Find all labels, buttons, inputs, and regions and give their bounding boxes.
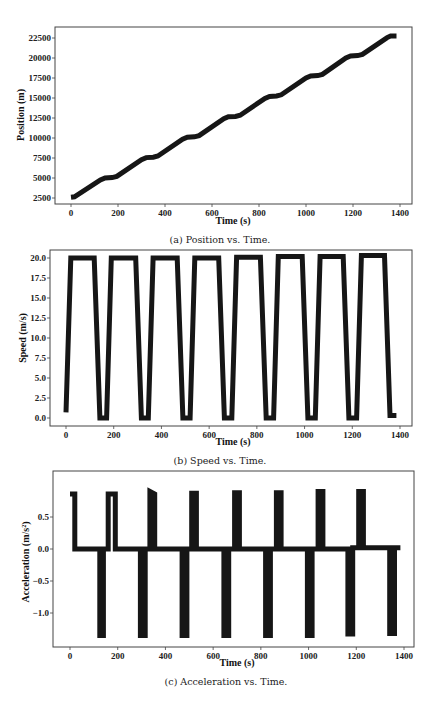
x-tick-label: 1400 <box>391 208 410 218</box>
x-tick-label: 800 <box>252 208 266 218</box>
y-tick-label: 7500 <box>33 153 52 163</box>
x-tick-label: 400 <box>159 651 173 661</box>
y-tick-label: 12.5 <box>30 313 46 323</box>
figure: 0200400600800100012001400 25005000750010… <box>0 0 440 708</box>
x-axis-label: Time (s) <box>219 657 254 669</box>
y-tick-label: 17500 <box>29 73 52 83</box>
y-tick-label: 0.0 <box>35 413 47 423</box>
acceleration-line <box>70 491 400 635</box>
caption-b: (b) Speed vs. Time. <box>174 455 267 466</box>
x-tick-label: 400 <box>155 430 169 440</box>
y-tick-label: 12500 <box>29 113 52 123</box>
x-tick-label: 600 <box>206 651 220 661</box>
x-tick-label: 0 <box>68 651 73 661</box>
x-tick-label: 600 <box>202 430 216 440</box>
x-tick-label: 0 <box>64 430 69 440</box>
x-tick-label: 0 <box>69 208 74 218</box>
caption-a: (a) Position vs. Time. <box>170 234 271 245</box>
x-tick-label: 200 <box>111 651 125 661</box>
y-tick-label: 17.5 <box>30 273 46 283</box>
y-tick-label: 2500 <box>33 193 52 203</box>
y-tick-label: −0.5 <box>33 576 50 586</box>
y-axis-label: Acceleration (m/s²) <box>20 521 32 602</box>
y-axis-label: Position (m) <box>15 89 27 141</box>
position-line <box>71 36 397 197</box>
y-tick-label: 10000 <box>29 133 52 143</box>
x-tick-label: 200 <box>111 208 125 218</box>
x-axis-label: Time (s) <box>215 215 250 227</box>
x-tick-label: 800 <box>254 651 268 661</box>
y-tick-label: 20000 <box>29 53 52 63</box>
x-tick-label: 1200 <box>343 430 362 440</box>
acceleration-chart: 0200400600800100012001400 −1.0−0.50.00.5… <box>20 471 414 687</box>
x-tick-label: 200 <box>107 430 121 440</box>
x-tick-label: 1000 <box>296 430 315 440</box>
y-tick-label: 0.0 <box>38 544 50 554</box>
x-tick-label: 1200 <box>347 651 366 661</box>
y-tick-label: 2.5 <box>35 393 47 403</box>
y-tick-label: 22500 <box>29 33 52 43</box>
caption-c: (c) Acceleration vs. Time. <box>165 676 288 687</box>
x-tick-label: 1400 <box>395 651 414 661</box>
position-chart: 0200400600800100012001400 25005000750010… <box>15 27 412 245</box>
y-tick-label: 0.5 <box>38 512 50 522</box>
y-tick-label: −1.0 <box>33 608 50 618</box>
y-tick-label: 15000 <box>29 93 52 103</box>
x-axis-label: Time (s) <box>215 436 250 448</box>
x-tick-label: 800 <box>250 430 264 440</box>
y-axis-ticks: 2500500075001000012500150001750020000225… <box>29 33 56 203</box>
y-tick-label: 7.5 <box>35 353 47 363</box>
y-tick-label: 5.0 <box>35 373 47 383</box>
y-axis-ticks: 0.02.55.07.510.012.515.017.520.0 <box>30 253 50 423</box>
y-axis-ticks: −1.0−0.50.00.5 <box>33 512 53 618</box>
x-tick-label: 1000 <box>300 651 319 661</box>
y-tick-label: 5000 <box>33 173 52 183</box>
y-axis-label: Speed (m/s) <box>17 313 29 363</box>
speed-line <box>66 256 396 418</box>
x-tick-label: 1200 <box>344 208 363 218</box>
speed-chart: 0200400600800100012001400 0.02.55.07.510… <box>17 250 412 466</box>
y-tick-label: 15.0 <box>30 293 46 303</box>
x-tick-label: 1400 <box>391 430 410 440</box>
y-tick-label: 20.0 <box>30 253 46 263</box>
x-tick-label: 400 <box>158 208 172 218</box>
x-tick-label: 1000 <box>297 208 316 218</box>
y-tick-label: 10.0 <box>30 333 46 343</box>
